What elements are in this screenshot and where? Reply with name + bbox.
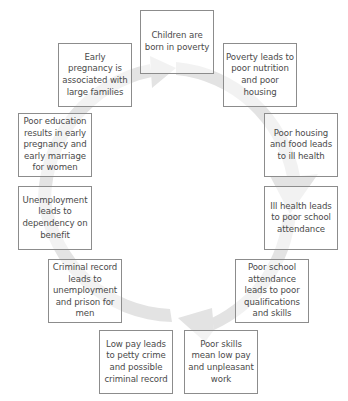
step-education: Poor education results in early pregnanc…: [18, 113, 92, 177]
step-low-pay: Low pay leads to petty crime and possibl…: [99, 330, 173, 394]
step-poverty: Poverty leads to poor nutrition and poor…: [223, 43, 297, 107]
step-housing: Poor housing and food leads to ill healt…: [264, 113, 338, 177]
step-pregnancy: Early pregnancy is associated with large…: [58, 43, 132, 107]
step-criminal: Criminal record leads to unemployment an…: [48, 259, 122, 323]
step-ill-health: Ill health leads to poor school attendan…: [264, 186, 338, 250]
step-school: Poor school attendance leads to poor qua…: [235, 259, 309, 323]
step-skills: Poor skills mean low pay and unpleasant …: [184, 330, 258, 394]
step-unemployment: Unemployment leads to dependency on bene…: [18, 186, 92, 250]
step-children: Children are born in poverty: [140, 10, 214, 74]
